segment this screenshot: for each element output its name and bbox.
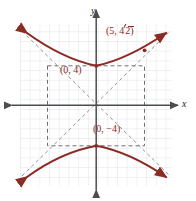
label-point-prefix: (5, 4 xyxy=(106,25,124,36)
y-axis-label: y xyxy=(91,6,95,16)
point-vertex-0-neg4 xyxy=(94,144,98,148)
label-vertex-0-neg4: (0, −4) xyxy=(93,124,120,134)
point-5-4root2 xyxy=(143,48,147,52)
point-vertex-0-4 xyxy=(94,64,98,68)
x-axis-label: x xyxy=(182,99,186,109)
label-point-suffix: ) xyxy=(130,25,133,36)
hyperbola-figure: (5, 42) (0, 4) (0, −4) y x xyxy=(0,0,196,201)
label-point-5-4root2: (5, 42) xyxy=(106,26,134,36)
radicand-value: 2 xyxy=(125,25,130,36)
graph-canvas xyxy=(0,0,196,201)
label-vertex-0-4: (0, 4) xyxy=(60,65,82,75)
radical-symbol-icon: 2 xyxy=(124,26,130,36)
